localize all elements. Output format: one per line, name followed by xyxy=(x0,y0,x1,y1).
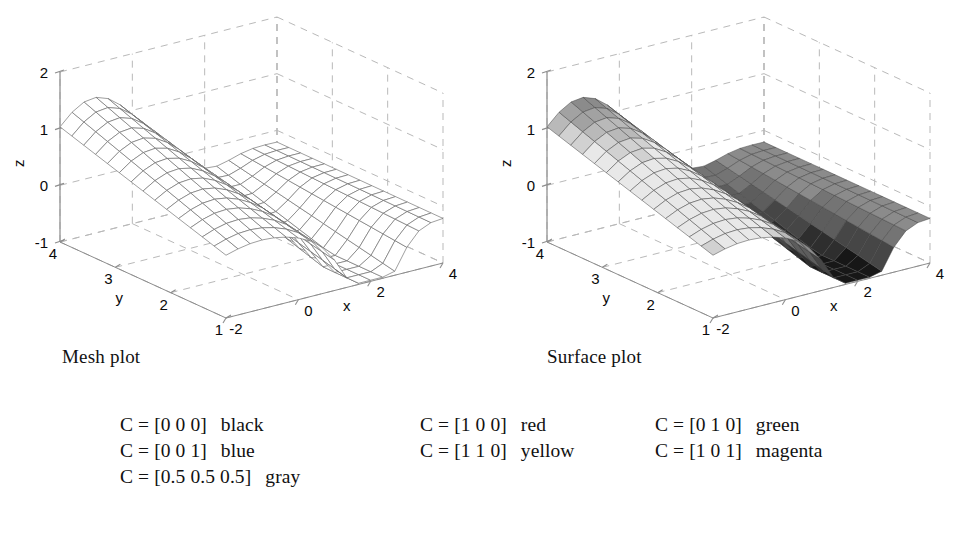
colorspec-code: C = [0.5 0.5 0.5] xyxy=(120,466,251,488)
colorspec-row: C = [1 1 0]yellow xyxy=(420,440,575,462)
colorspec-name: red xyxy=(521,414,546,436)
z-tick-label: 0 xyxy=(527,177,535,194)
x-tick-label: -2 xyxy=(716,320,729,337)
colorspec-code: C = [0 1 0] xyxy=(655,414,742,436)
colorspec-name: gray xyxy=(265,466,300,488)
z-tick-label: 2 xyxy=(40,64,48,81)
x-axis-label: x xyxy=(343,297,351,314)
colorspec-code: C = [1 0 1] xyxy=(655,440,742,462)
y-tick-label: 1 xyxy=(215,321,223,338)
z-tick-label: 1 xyxy=(40,121,48,138)
surface-plot-panel: 210-1z4321y-2024x Surface plot xyxy=(487,0,973,400)
z-tick-label: 0 xyxy=(40,177,48,194)
x-tick-label: 0 xyxy=(304,302,312,319)
y-tick-label: 4 xyxy=(49,245,57,262)
colorspec-row: C = [0 0 0]black xyxy=(120,414,264,436)
colorspec-code: C = [1 1 0] xyxy=(420,440,507,462)
mesh-plot-caption: Mesh plot xyxy=(62,346,140,368)
colorspec-code: C = [1 0 0] xyxy=(420,414,507,436)
colorspec-code: C = [0 0 1] xyxy=(120,440,207,462)
colorspec-row: C = [1 0 1]magenta xyxy=(655,440,823,462)
z-tick-label: 1 xyxy=(527,121,535,138)
y-axis-label: y xyxy=(116,289,124,306)
y-tick-label: 3 xyxy=(104,270,112,287)
y-tick-label: 2 xyxy=(159,296,167,313)
colorspec-row: C = [0.5 0.5 0.5]gray xyxy=(120,466,300,488)
z-axis-label: z xyxy=(497,159,514,167)
colorspec-legend: C = [0 0 0]blackC = [0 0 1]blueC = [0.5 … xyxy=(0,404,973,536)
y-tick-label: 2 xyxy=(646,296,654,313)
z-tick-label: -1 xyxy=(35,234,48,251)
x-tick-label: 4 xyxy=(936,265,944,282)
z-tick-label: -1 xyxy=(522,234,535,251)
colorspec-name: black xyxy=(221,414,264,436)
surface-plot-caption: Surface plot xyxy=(547,346,642,368)
figure-page: 210-1z4321y-2024x Mesh plot 210-1z4321y-… xyxy=(0,0,973,536)
y-tick-label: 3 xyxy=(591,270,599,287)
x-tick-label: 2 xyxy=(863,283,871,300)
colorspec-row: C = [0 1 0]green xyxy=(655,414,800,436)
colorspec-name: yellow xyxy=(521,440,575,462)
z-tick-label: 2 xyxy=(527,64,535,81)
colorspec-row: C = [0 0 1]blue xyxy=(120,440,255,462)
surface-plot-canvas: 210-1z4321y-2024x xyxy=(487,0,973,400)
y-tick-label: 1 xyxy=(702,321,710,338)
y-axis-label: y xyxy=(603,289,611,306)
colorspec-name: green xyxy=(756,414,800,436)
colorspec-row: C = [1 0 0]red xyxy=(420,414,546,436)
x-axis-label: x xyxy=(830,297,838,314)
colorspec-code: C = [0 0 0] xyxy=(120,414,207,436)
x-tick-label: -2 xyxy=(229,320,242,337)
x-tick-label: 0 xyxy=(791,302,799,319)
mesh-plot-panel: 210-1z4321y-2024x Mesh plot xyxy=(0,0,486,400)
x-tick-label: 2 xyxy=(376,283,384,300)
x-tick-label: 4 xyxy=(449,265,457,282)
y-tick-label: 4 xyxy=(536,245,544,262)
mesh-plot-canvas: 210-1z4321y-2024x xyxy=(0,0,486,400)
colorspec-name: magenta xyxy=(756,440,823,462)
z-axis-label: z xyxy=(10,159,27,167)
colorspec-name: blue xyxy=(221,440,255,462)
